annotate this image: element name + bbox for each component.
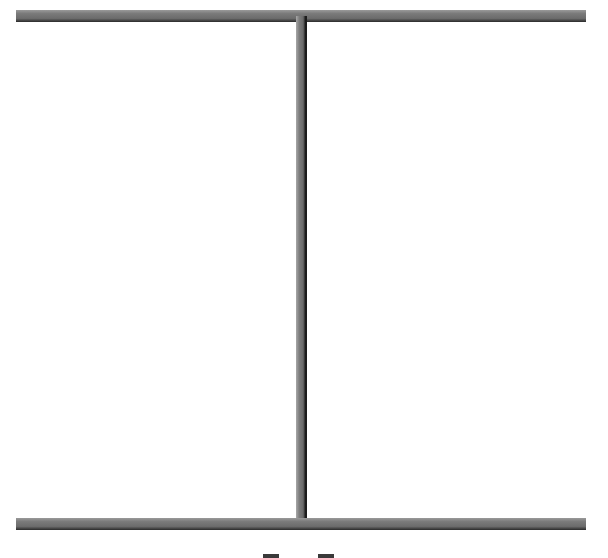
left-foot-mark bbox=[263, 554, 279, 558]
center-mullion bbox=[296, 16, 307, 522]
diagram-canvas bbox=[0, 0, 608, 558]
bottom-rail bbox=[16, 518, 586, 530]
right-foot-mark bbox=[318, 554, 334, 558]
